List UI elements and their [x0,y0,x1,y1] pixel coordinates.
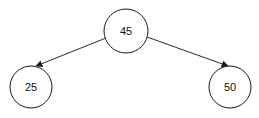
edge-45-to-50 [147,37,228,66]
node-label-root: 45 [120,25,132,37]
tree-diagram: 45 25 50 [0,0,259,118]
node-label-right: 50 [224,81,236,93]
edge-45-to-25 [36,38,106,66]
node-left: 25 [10,66,52,108]
node-right: 50 [209,66,251,108]
node-label-left: 25 [25,81,37,93]
node-root: 45 [104,9,148,53]
